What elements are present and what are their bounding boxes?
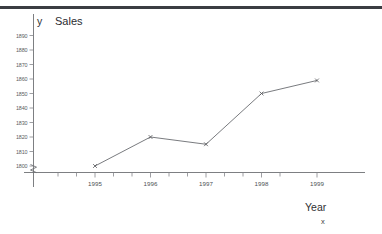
y-tick-label: 1800: [16, 163, 28, 169]
x-tick-label: 1998: [255, 180, 269, 187]
y-tick-label: 1810: [16, 149, 28, 155]
y-tick-label: 1840: [16, 105, 28, 111]
y-tick-label: 1890: [16, 33, 28, 39]
chart-figure: 1800181018201830184018501860187018801890…: [0, 9, 382, 234]
chart-page: 1800181018201830184018501860187018801890…: [0, 0, 382, 234]
x-tick-label: 1995: [88, 180, 102, 187]
x-axis-name-label: Year: [305, 201, 327, 213]
plot-title: Sales: [55, 15, 83, 27]
y-axis-symbol-label: y: [37, 15, 43, 27]
y-tick-label: 1820: [16, 134, 28, 140]
y-tick-label: 1860: [16, 76, 28, 82]
y-tick-label: 1880: [16, 47, 28, 53]
y-tick-label: 1870: [16, 62, 28, 68]
x-axis-symbol-label: x: [321, 217, 325, 226]
y-tick-label: 1850: [16, 91, 28, 97]
x-tick-label: 1999: [310, 180, 324, 187]
x-tick-label: 1997: [199, 180, 213, 187]
y-tick-label: 1830: [16, 120, 28, 126]
x-tick-label: 1996: [144, 180, 158, 187]
line-chart: 1800181018201830184018501860187018801890…: [0, 9, 382, 234]
